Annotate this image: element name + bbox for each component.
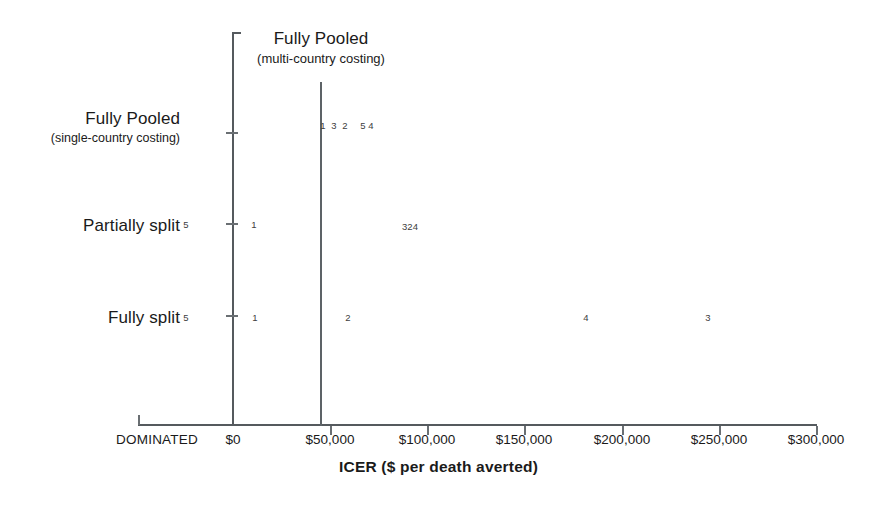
x-tick-label-dominated: DOMINATED (116, 432, 198, 447)
data-point-label: 1 (320, 120, 325, 131)
x-axis-line (138, 424, 817, 426)
icer-scatter-chart: Fully Pooled (multi-country costing) Ful… (0, 0, 877, 508)
x-tick-label-0: $0 (225, 432, 240, 447)
category-label-line1: Fully split (0, 307, 180, 329)
category-label-partially-split: Partially split (0, 215, 180, 237)
reference-line-multi-country-pooled (320, 82, 322, 426)
data-point-label: 1 (251, 219, 256, 230)
data-point-label: 4 (368, 120, 373, 131)
y-axis-tick-pooled-single (226, 132, 238, 134)
data-point-label: 5 (360, 120, 365, 131)
data-point-label: 5 (183, 312, 188, 323)
category-label-line2: (single-country costing) (0, 130, 180, 146)
x-tick-label-50k: $50,000 (306, 432, 355, 447)
category-label-fully-split: Fully split (0, 307, 180, 329)
data-point-label: 5 (183, 219, 188, 230)
data-point-label: 2 (342, 120, 347, 131)
reference-line-label-line2: (multi-country costing) (195, 50, 447, 67)
reference-line-label: Fully Pooled (multi-country costing) (195, 28, 447, 68)
x-tick-label-200k: $200,000 (594, 432, 650, 447)
x-tick-label-100k: $100,000 (399, 432, 455, 447)
data-point-label: 4 (583, 312, 588, 323)
y-axis-tick-fully-split (226, 315, 238, 317)
reference-line-label-line1: Fully Pooled (195, 28, 447, 50)
data-point-label: 3 (705, 312, 710, 323)
y-axis-line (232, 32, 234, 426)
data-point-label: 324 (402, 221, 418, 232)
data-point-label: 1 (252, 312, 257, 323)
y-axis-tick-partially-split (226, 223, 238, 225)
x-tick-label-150k: $150,000 (496, 432, 552, 447)
data-point-label: 3 (331, 120, 336, 131)
x-tick-label-300k: $300,000 (788, 432, 844, 447)
x-axis-left-cap (138, 415, 140, 425)
category-label-line1: Fully Pooled (0, 108, 180, 130)
category-label-fully-pooled-single: Fully Pooled (single-country costing) (0, 108, 180, 146)
category-label-line1: Partially split (0, 215, 180, 237)
data-point-label: 2 (345, 312, 350, 323)
x-tick-label-250k: $250,000 (691, 432, 747, 447)
x-axis-title: ICER ($ per death averted) (0, 458, 877, 476)
